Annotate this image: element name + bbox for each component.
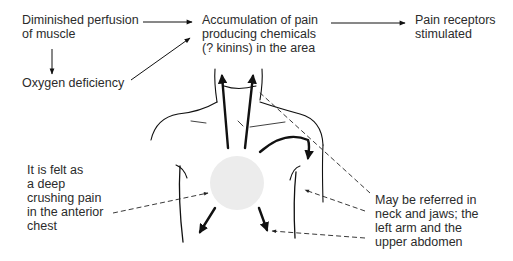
leader-referred-to-abdomen	[272, 231, 365, 238]
arrow-oxygen-to-accumulation	[131, 38, 190, 80]
leader-felt-to-chest	[113, 193, 208, 213]
arrow-to-neck-right	[245, 76, 253, 148]
leader-referred-to-arm	[305, 190, 365, 211]
arrow-to-right-side	[200, 208, 215, 232]
diagram-illustration	[0, 0, 513, 261]
arrow-to-left-arm	[260, 137, 309, 158]
flow-arrows	[52, 22, 405, 80]
chest-pain-area	[210, 156, 264, 210]
body-outline	[151, 69, 323, 242]
arrow-to-abdomen	[259, 208, 267, 230]
